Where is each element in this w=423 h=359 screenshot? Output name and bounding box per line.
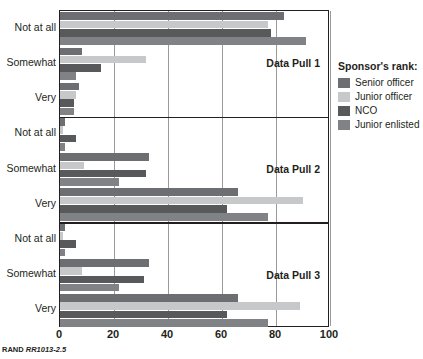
bar-group (60, 222, 328, 257)
legend-label: NCO (355, 105, 377, 116)
bar (60, 302, 300, 310)
bar-group (60, 11, 328, 46)
y-tick-label: Very (0, 302, 56, 314)
bar (60, 178, 119, 186)
legend-title: Sponsor's rank: (338, 60, 423, 72)
x-tick-label-60: 60 (215, 328, 227, 340)
bar (60, 143, 65, 151)
gridline-100 (330, 11, 331, 326)
bar (60, 29, 271, 37)
bar-group (60, 81, 328, 116)
legend-item: Senior officer (338, 77, 423, 88)
bar (60, 21, 268, 29)
bar (60, 118, 65, 126)
bar (60, 259, 149, 267)
bar (60, 213, 268, 221)
bar (60, 37, 306, 45)
bar (60, 311, 227, 319)
bar (60, 126, 63, 134)
panel-label-3: Data Pull 3 (266, 269, 320, 281)
x-tick-label-0: 0 (56, 328, 62, 340)
bar (60, 162, 84, 170)
figure: Not at allSomewhatVeryNot at allSomewhat… (0, 0, 423, 359)
bar-group (60, 293, 328, 328)
legend-swatch-icon (338, 78, 350, 88)
legend-swatch-icon (338, 120, 350, 130)
y-axis-category-labels: Not at allSomewhatVeryNot at allSomewhat… (0, 10, 56, 327)
bar (60, 197, 303, 205)
bar (60, 276, 144, 284)
x-tick-label-40: 40 (161, 328, 173, 340)
footer-report-code: RR1013-2.5 (26, 345, 66, 354)
x-tick-label-20: 20 (107, 328, 119, 340)
legend-label: Junior officer (355, 91, 412, 102)
bar (60, 249, 65, 257)
panel-label-2: Data Pull 2 (266, 163, 320, 175)
legend-label: Senior officer (355, 77, 414, 88)
legend: Sponsor's rank: Senior officerJunior off… (338, 60, 423, 133)
bar-group (60, 117, 328, 152)
bar (60, 294, 238, 302)
bar (60, 56, 146, 64)
bar (60, 108, 74, 116)
bar (60, 232, 63, 240)
bar (60, 284, 119, 292)
y-tick-label: Not at all (0, 232, 56, 244)
y-tick-label: Not at all (0, 21, 56, 33)
bar (60, 91, 76, 99)
bar (60, 319, 268, 327)
bar-group (60, 187, 328, 222)
bar (60, 267, 82, 275)
x-axis: 020406080100 (59, 328, 329, 344)
panel-label-1: Data Pull 1 (266, 57, 320, 69)
legend-items: Senior officerJunior officerNCOJunior en… (338, 77, 423, 130)
bar (60, 240, 76, 248)
y-tick-label: Somewhat (0, 267, 56, 279)
bar (60, 188, 238, 196)
bar (60, 83, 79, 91)
legend-label: Junior enlisted (355, 119, 419, 130)
legend-swatch-icon (338, 106, 350, 116)
x-tick-label-100: 100 (320, 328, 338, 340)
bar (60, 205, 227, 213)
legend-item: NCO (338, 105, 423, 116)
x-tick-label-80: 80 (269, 328, 281, 340)
footer-source: RAND (2, 345, 24, 354)
bar (60, 135, 76, 143)
y-tick-label: Not at all (0, 126, 56, 138)
legend-item: Junior officer (338, 91, 423, 102)
figure-footer: RAND RR1013-2.5 (2, 345, 66, 354)
bar (60, 64, 101, 72)
legend-swatch-icon (338, 92, 350, 102)
y-tick-label: Somewhat (0, 56, 56, 68)
bar (60, 170, 146, 178)
bar (60, 48, 82, 56)
bar (60, 12, 284, 20)
y-tick-label: Very (0, 91, 56, 103)
plot-area: Data Pull 1Data Pull 2Data Pull 3 (59, 10, 329, 327)
y-tick-label: Somewhat (0, 162, 56, 174)
y-tick-label: Very (0, 197, 56, 209)
bar (60, 99, 74, 107)
bar (60, 224, 65, 232)
bar (60, 153, 149, 161)
legend-item: Junior enlisted (338, 119, 423, 130)
bar (60, 72, 76, 80)
